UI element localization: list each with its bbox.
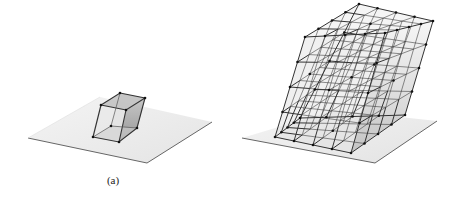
sheared-cube-illustration: [0, 0, 228, 201]
figure-panel-a: (a): [0, 0, 228, 201]
sheared-lattice-illustration: [228, 0, 455, 201]
caption-a: (a): [93, 174, 133, 186]
figure-panel-b: (b): [228, 0, 455, 201]
